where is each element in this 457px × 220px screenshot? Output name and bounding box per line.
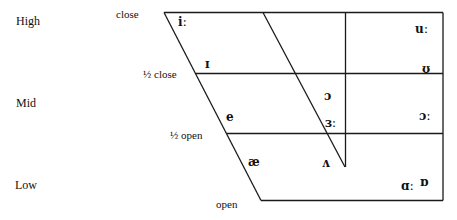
height-label-mid: Mid [16,97,36,109]
vowel-er-long: ɜː [325,117,336,129]
vowel-u-long: uː [415,23,428,35]
openness-label-open: open [216,199,237,210]
height-label-low: Low [15,179,37,191]
vowel-open-o: ɔ [324,90,331,102]
vowel-wedge: ʌ [322,157,330,169]
vowel-i-long: iː [178,16,187,28]
vowel-e: e [226,111,234,123]
central-diagonal [263,13,345,168]
vowel-ae: æ [248,156,260,168]
vowel-short-o: ɒ [420,176,428,188]
openness-label-half-open: ½ open [170,130,202,141]
vowel-a-long: ɑː [401,180,414,192]
vowel-short-i: ɪ [205,58,210,70]
height-label-high: High [16,15,40,27]
vowel-short-u: ʊ [422,63,430,75]
vowel-aw-long: ɔː [419,110,431,122]
openness-label-close: close [116,9,139,20]
openness-label-half-close: ½ close [143,69,177,80]
front-slant-edge [164,13,261,201]
